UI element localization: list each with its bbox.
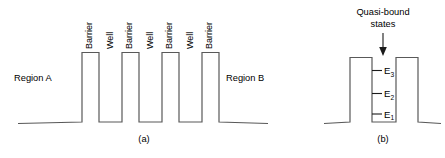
- energy-level-label-e1: E1: [384, 109, 394, 122]
- energy-subscript-e1: 1: [390, 114, 394, 121]
- structure-label-barrier-2: Barrier: [124, 22, 134, 49]
- energy-level-label-e2: E2: [384, 88, 394, 101]
- structure-label-well-2: Well: [145, 32, 155, 49]
- panel-a-structure-labels: Barrier Well Barrier Well Barrier Well B…: [84, 22, 214, 49]
- structure-label-barrier-3: Barrier: [164, 22, 174, 49]
- structure-label-barrier-4: Barrier: [204, 22, 214, 49]
- panel-a-graphics: [18, 53, 268, 124]
- panel-b-energy-labels: E3 E2 E1: [384, 65, 394, 121]
- potential-barrier-figure: Barrier Well Barrier Well Barrier Well B…: [0, 0, 445, 158]
- energy-level-label-e3: E3: [384, 65, 394, 78]
- quasi-bound-arrow-head: [379, 47, 387, 56]
- panel-b-energy-levels: [372, 71, 382, 115]
- quasi-bound-annotation: Quasi-bound states: [356, 7, 409, 56]
- figure-root: Barrier Well Barrier Well Barrier Well B…: [0, 0, 445, 158]
- panel-b-potential-profile: [324, 58, 441, 124]
- structure-label-barrier-1: Barrier: [84, 22, 94, 49]
- quasi-bound-label-line2: states: [371, 19, 396, 29]
- region-b-label: Region B: [226, 73, 264, 83]
- panel-b-graphics: [324, 58, 441, 124]
- panel-a-potential-profile: [18, 53, 268, 124]
- structure-label-well-3: Well: [185, 32, 195, 49]
- region-a-label: Region A: [14, 73, 53, 83]
- structure-label-well-1: Well: [105, 32, 115, 49]
- panel-b-caption: (b): [377, 134, 388, 144]
- quasi-bound-label-line1: Quasi-bound: [356, 7, 409, 17]
- energy-subscript-e3: 3: [390, 71, 394, 78]
- panel-a-caption: (a): [138, 134, 149, 144]
- energy-subscript-e2: 2: [390, 94, 394, 101]
